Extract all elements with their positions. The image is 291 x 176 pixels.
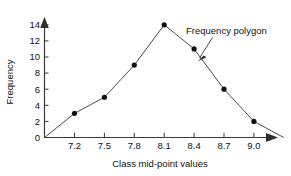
- y-tick-label: 0: [35, 132, 40, 143]
- frequency-polygon-line: [45, 25, 284, 138]
- chart-canvas: 0 2 4 6 8 10 12 14 7.2 7.5 7.8 8.1 8.4 8…: [0, 0, 291, 176]
- y-axis-title: Frequency: [4, 59, 15, 104]
- annotation-leader: [198, 38, 213, 62]
- data-point: [221, 87, 226, 92]
- data-point: [162, 22, 167, 27]
- x-axis-arrowhead: [266, 133, 278, 142]
- x-tick-labels: 7.2 7.5 7.8 8.1 8.4 8.7 9.0: [68, 140, 261, 151]
- data-point: [72, 111, 77, 116]
- x-tick-label: 8.4: [187, 140, 200, 151]
- x-tick-label: 8.7: [217, 140, 230, 151]
- y-axis: [40, 17, 49, 138]
- y-tick-label: 4: [35, 100, 40, 111]
- y-tick-label: 8: [35, 67, 40, 78]
- data-point: [132, 62, 137, 67]
- y-axis-arrowhead: [40, 17, 49, 28]
- frequency-polygon-chart: 0 2 4 6 8 10 12 14 7.2 7.5 7.8 8.1 8.4 8…: [0, 0, 291, 176]
- x-tick-label: 7.2: [68, 140, 81, 151]
- x-tick-marks: [75, 133, 254, 138]
- y-tick-label: 2: [35, 116, 40, 127]
- x-tick-label: 7.5: [98, 140, 111, 151]
- y-tick-label: 14: [29, 19, 40, 30]
- x-tick-label: 8.1: [158, 140, 171, 151]
- data-point: [102, 95, 107, 100]
- x-axis-title: Class mid-point values: [112, 158, 208, 169]
- y-tick-label: 10: [29, 51, 40, 62]
- y-tick-labels: 0 2 4 6 8 10 12 14: [29, 19, 40, 143]
- annotation-label: Frequency polygon: [186, 25, 267, 36]
- y-tick-label: 12: [29, 35, 40, 46]
- x-tick-label: 7.8: [128, 140, 141, 151]
- data-point-markers: [72, 22, 257, 124]
- data-point: [251, 119, 256, 124]
- annotation-arrowhead: [198, 55, 207, 61]
- data-point: [192, 46, 197, 51]
- y-tick-label: 6: [35, 84, 40, 95]
- x-tick-label: 9.0: [247, 140, 260, 151]
